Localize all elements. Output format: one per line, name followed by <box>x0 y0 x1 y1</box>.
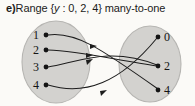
domain-node-label-4: 4 <box>33 79 39 91</box>
range-node-dot-0 <box>156 35 161 40</box>
domain-node-label-1: 1 <box>33 29 39 41</box>
domain-node-dot-4 <box>44 83 49 88</box>
range-node-dot-4 <box>156 88 161 93</box>
domain-node-label-3: 3 <box>33 61 39 73</box>
mapping-diagram-figure: e)Range {y : 0, 2, 4} many-to-one <box>0 0 195 106</box>
domain-node-dot-1 <box>44 33 49 38</box>
domain-node-dot-3 <box>44 65 49 70</box>
range-node-label-2: 2 <box>164 60 170 72</box>
domain-node-label-2: 2 <box>33 44 39 56</box>
domain-node-dot-2 <box>44 48 49 53</box>
range-node-label-0: 0 <box>164 31 170 43</box>
range-ellipse <box>119 26 181 102</box>
range-node-label-4: 4 <box>164 84 170 96</box>
range-node-dot-2 <box>156 64 161 69</box>
